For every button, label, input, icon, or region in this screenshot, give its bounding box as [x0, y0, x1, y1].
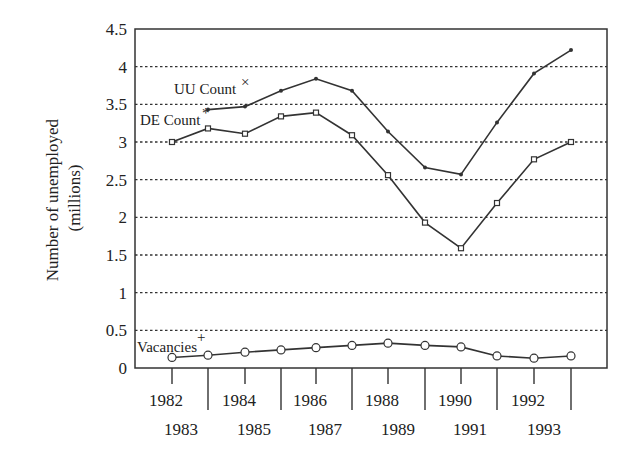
- y-tick-label: 0.5: [106, 321, 127, 340]
- dot-marker: [495, 120, 499, 124]
- x-tick-label: 1986: [293, 391, 327, 410]
- y-tick-label: 1: [119, 284, 128, 303]
- square-marker: [350, 133, 355, 138]
- x-tick-label: 1982: [149, 391, 183, 410]
- circle-marker: [530, 354, 538, 362]
- y-axis-title-line2: (millions): [65, 164, 84, 231]
- y-tick-label: 4.5: [106, 20, 127, 39]
- square-marker: [243, 131, 248, 136]
- series-line: [172, 343, 571, 358]
- circle-marker: [567, 352, 575, 360]
- y-tick-label: 3.5: [106, 95, 127, 114]
- square-marker: [459, 246, 464, 251]
- x-tick-label: 1991: [453, 420, 487, 439]
- series-labels: UU Count×DE Count*Vacancies+: [137, 74, 249, 355]
- series-vacancies: [168, 339, 575, 362]
- square-marker: [495, 201, 500, 206]
- series-line: [208, 50, 571, 174]
- x-tick-label: 1990: [438, 391, 472, 410]
- circle-marker: [241, 348, 249, 356]
- y-tick-label: 1.5: [106, 246, 127, 265]
- dot-marker: [386, 129, 390, 133]
- square-marker: [206, 126, 211, 131]
- series-label-marker: +: [197, 329, 205, 345]
- x-tick-label: 1992: [511, 391, 545, 410]
- circle-marker: [312, 344, 320, 352]
- y-tick-label: 0: [119, 359, 128, 378]
- series-line: [172, 113, 571, 249]
- circle-marker: [457, 343, 465, 351]
- series-de-count: [170, 110, 574, 251]
- circle-marker: [204, 351, 212, 359]
- dot-marker: [423, 166, 427, 170]
- circle-marker: [348, 341, 356, 349]
- square-marker: [386, 173, 391, 178]
- dot-marker: [243, 105, 247, 109]
- x-tick-label: 1985: [237, 420, 271, 439]
- x-tick-label: 1993: [527, 420, 561, 439]
- line-chart: 00.511.522.533.544.5 1982198319841985198…: [0, 0, 624, 454]
- square-marker: [314, 110, 319, 115]
- plot-area-frame: [135, 29, 607, 368]
- series-label: Vacancies: [137, 339, 197, 355]
- square-marker: [279, 114, 284, 119]
- series-label-marker: ×: [241, 74, 249, 90]
- x-tick-label: 1984: [222, 391, 257, 410]
- dot-marker: [279, 89, 283, 93]
- y-axis-ticks: 00.511.522.533.544.5: [106, 20, 128, 378]
- series-label-marker: *: [202, 105, 210, 121]
- x-tick-label: 1987: [308, 420, 343, 439]
- y-axis-title-line1: Number of unemployed: [43, 118, 62, 281]
- y-tick-label: 2.5: [106, 171, 127, 190]
- y-tick-label: 2: [119, 208, 128, 227]
- x-axis-ticks: 1982198319841985198619871988198919901991…: [149, 368, 571, 439]
- x-tick-label: 1989: [381, 420, 415, 439]
- dot-marker: [459, 172, 463, 176]
- square-marker: [170, 140, 175, 145]
- circle-marker: [384, 339, 392, 347]
- square-marker: [569, 140, 574, 145]
- series-label: DE Count: [140, 112, 201, 128]
- y-tick-label: 3: [119, 133, 128, 152]
- series-label: UU Count: [174, 81, 237, 97]
- y-tick-label: 4: [119, 58, 128, 77]
- x-tick-label: 1983: [164, 420, 198, 439]
- circle-marker: [493, 352, 501, 360]
- circle-marker: [277, 346, 285, 354]
- dot-marker: [569, 48, 573, 52]
- dot-marker: [314, 77, 318, 81]
- y-axis-title: Number of unemployed (millions): [43, 115, 84, 282]
- circle-marker: [421, 341, 429, 349]
- square-marker: [423, 220, 428, 225]
- dot-marker: [532, 71, 536, 75]
- dot-marker: [350, 89, 354, 93]
- x-tick-label: 1988: [365, 391, 399, 410]
- square-marker: [532, 157, 537, 162]
